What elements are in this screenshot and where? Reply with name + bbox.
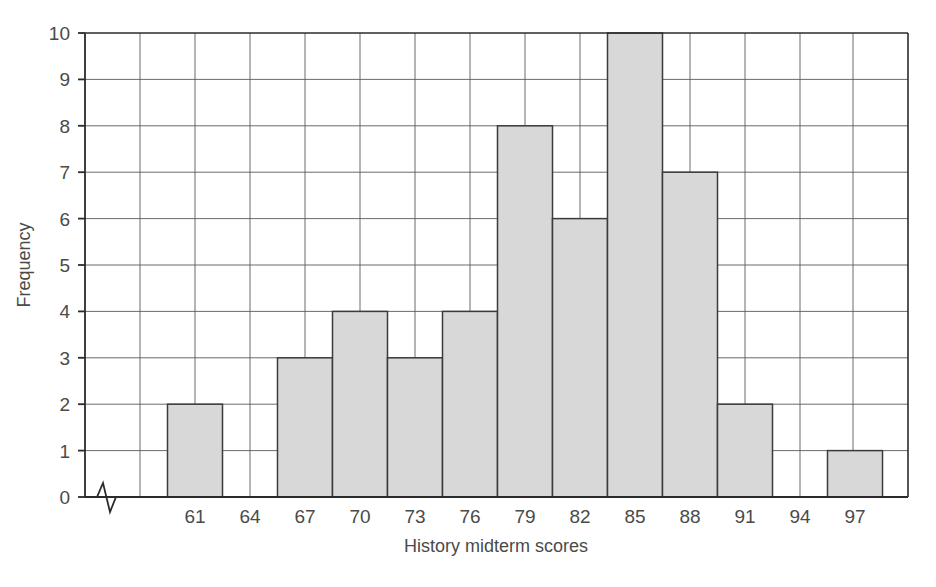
y-tick-label: 7 [59,162,70,183]
histogram-bar [498,126,553,497]
y-tick-label: 2 [59,394,70,415]
y-tick-labels: 012345678910 [49,23,71,508]
histogram-bar [388,358,443,497]
x-tick-label: 73 [404,506,425,527]
x-tick-label: 85 [624,506,645,527]
histogram-bar [828,451,883,497]
x-tick-label: 79 [514,506,535,527]
histogram-bar [333,311,388,497]
x-tick-label: 76 [459,506,480,527]
y-tick-label: 1 [59,441,70,462]
x-tick-label: 67 [294,506,315,527]
y-tick-label: 6 [59,209,70,230]
histogram-bar [278,358,333,497]
histogram-figure: 012345678910 61646770737679828588919497 … [0,0,936,587]
y-tick-label: 9 [59,69,70,90]
x-tick-label: 61 [184,506,205,527]
y-axis-title: Frequency [14,222,34,307]
histogram-chart: 012345678910 61646770737679828588919497 … [0,0,936,587]
y-tick-label: 0 [59,487,70,508]
x-axis-title: History midterm scores [404,536,588,556]
y-tick-label: 4 [59,301,70,322]
x-tick-label: 64 [239,506,261,527]
histogram-bar [168,404,223,497]
y-tick-label: 3 [59,348,70,369]
x-tick-label: 88 [679,506,700,527]
y-tick-label: 8 [59,116,70,137]
x-tick-label: 82 [569,506,590,527]
histogram-bar [553,219,608,497]
x-tick-label: 97 [844,506,865,527]
x-tick-labels: 61646770737679828588919497 [184,506,865,527]
x-tick-label: 70 [349,506,370,527]
histogram-bar [608,33,663,497]
y-tick-marks [78,33,85,497]
y-tick-label: 10 [49,23,70,44]
histogram-bar [443,311,498,497]
histogram-bar [663,172,718,497]
x-tick-label: 94 [789,506,811,527]
x-tick-label: 91 [734,506,755,527]
y-tick-label: 5 [59,255,70,276]
histogram-bar [718,404,773,497]
